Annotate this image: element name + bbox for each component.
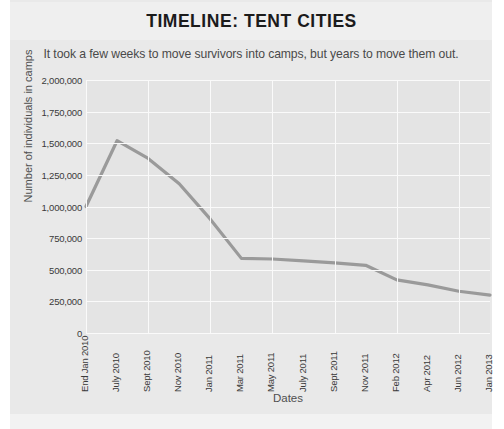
y-tick-label: 250,000 <box>49 296 82 307</box>
y-tick-label: 500,000 <box>49 264 82 275</box>
y-tick-label: 750,000 <box>49 233 82 244</box>
chart-page: TIMELINE: TENT CITIES It took a few week… <box>0 0 504 429</box>
gridline-horizontal <box>86 333 490 334</box>
y-tick-label: 1,750,000 <box>42 106 82 117</box>
title-band: TIMELINE: TENT CITIES <box>10 2 492 40</box>
gridline-vertical <box>148 80 149 333</box>
gridline-horizontal <box>86 207 490 208</box>
y-tick-label: 1,500,000 <box>42 138 82 149</box>
gridline-vertical <box>335 80 336 333</box>
x-tick-label: End Jan 2010 <box>79 336 90 392</box>
gridline-horizontal <box>86 80 490 81</box>
x-tick-label: Sept 2010 <box>141 350 152 392</box>
data-line <box>86 141 490 295</box>
x-axis-label: Dates <box>86 392 490 404</box>
x-tick-label: Jan 2011 <box>203 355 214 392</box>
gridline-horizontal <box>86 175 490 176</box>
gridline-vertical <box>86 80 87 333</box>
page-title: TIMELINE: TENT CITIES <box>146 10 357 32</box>
x-tick-label: Nov 2010 <box>172 353 183 392</box>
gridline-vertical <box>210 80 211 333</box>
x-tick-label: Jun 2012 <box>452 355 463 393</box>
gridline-vertical <box>459 80 460 333</box>
x-tick-label: Apr 2012 <box>421 355 432 392</box>
y-tick-label: 2,000,000 <box>42 75 82 86</box>
x-tick-label: Sept 2011 <box>328 351 339 392</box>
gridline-horizontal <box>86 143 490 144</box>
x-tick-label: Mar 2011 <box>234 354 245 392</box>
x-tick-label: Jan 2013 <box>483 355 494 393</box>
chart-subtitle: It took a few weeks to move survivors in… <box>10 47 492 61</box>
card-bottom-strip <box>10 414 492 429</box>
gridline-vertical <box>397 80 398 333</box>
x-tick-label: Feb 2012 <box>390 353 401 392</box>
y-tick-label: 1,250,000 <box>42 169 82 180</box>
gridline-horizontal <box>86 270 490 271</box>
x-tick-label: Nov 2011 <box>359 354 370 392</box>
gridline-vertical <box>272 80 273 333</box>
gridline-horizontal <box>86 238 490 239</box>
y-axis-ticks: 0250,000500,000750,0001,000,0001,250,000… <box>0 80 86 333</box>
x-axis-ticks: End Jan 2010July 2010Sept 2010Nov 2010Ja… <box>86 336 490 392</box>
x-tick-label: July 2010 <box>110 353 121 392</box>
x-tick-label: May 2011 <box>265 353 276 392</box>
plot-area <box>86 80 490 333</box>
gridline-horizontal <box>86 112 490 113</box>
x-tick-label: July 2011 <box>297 354 308 392</box>
y-tick-label: 1,000,000 <box>42 201 82 212</box>
gridline-horizontal <box>86 301 490 302</box>
